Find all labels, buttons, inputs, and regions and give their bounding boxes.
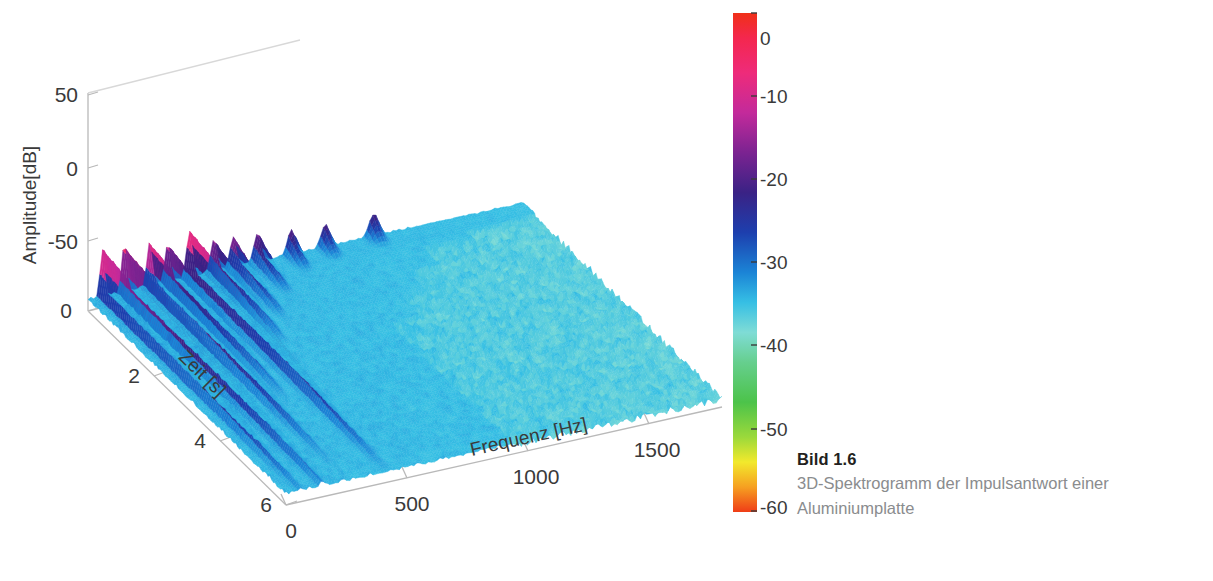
frequency-tick-label: 1500: [634, 438, 681, 461]
colorbar-tick-label: -30: [760, 252, 787, 273]
caption-line-2: Aluminiumplatte: [797, 497, 1187, 520]
colorbar-tick-label: -10: [760, 86, 787, 107]
time-tick-label: 2: [128, 364, 140, 387]
frequency-tick-label: 500: [394, 492, 429, 515]
time-tick-label: 6: [260, 493, 272, 516]
z-tick-label: 50: [55, 83, 78, 106]
frequency-tick-label: 0: [285, 519, 297, 542]
frequency-tick-label: 1000: [513, 465, 560, 488]
colorbar-tick-label: -20: [760, 169, 787, 190]
z-tick-label: 0: [66, 157, 78, 180]
colorbar-tick-label: -50: [760, 419, 787, 440]
caption-number: Bild 1.6: [797, 448, 1187, 470]
colorbar-tick-label: -60: [760, 497, 787, 518]
time-tick-label: 0: [60, 299, 72, 322]
colorbar-tick-label: -40: [760, 335, 787, 356]
colorbar-tick-label: 0: [760, 28, 771, 49]
z-axis-label: Amplitude[dB]: [19, 146, 40, 264]
time-tick-label: 4: [194, 429, 206, 452]
figure-caption: Bild 1.6 3D-Spektrogramm der Impulsantwo…: [797, 448, 1187, 520]
caption-line-1: 3D-Spektrogramm der Impulsantwort einer: [797, 472, 1187, 495]
z-tick-label: -50: [48, 230, 78, 253]
